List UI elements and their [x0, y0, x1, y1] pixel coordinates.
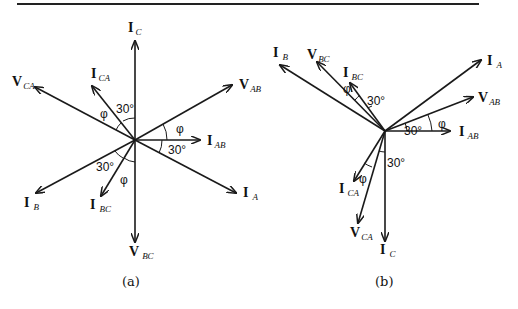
vector-ia	[385, 60, 481, 131]
label-ia: IA	[243, 185, 258, 202]
angle-label: φ	[438, 117, 446, 131]
angle-label: φ	[359, 172, 367, 186]
label-vca: VCA	[350, 225, 373, 242]
label-ic: IC	[128, 20, 142, 37]
angle-arc	[364, 163, 372, 167]
label-ica: ICA	[339, 181, 359, 198]
phasor-diagrams: 30° φ φ 30° 30° φ IC VCA ICA VAB IAB IA …	[0, 0, 518, 309]
angle-label: φ	[343, 82, 351, 96]
label-iab: IAB	[207, 133, 226, 150]
angle-arc	[115, 151, 123, 158]
label-vbc: VBC	[129, 244, 155, 261]
angle-arc	[355, 95, 360, 100]
label-ibc: IBC	[90, 197, 112, 214]
angle-arc	[116, 123, 121, 130]
angle-label: φ	[176, 122, 184, 136]
label-iab: IAB	[459, 124, 479, 141]
diagram-a: 30° φ φ 30° 30° φ IC VCA ICA VAB IAB IA …	[12, 20, 262, 289]
label-ia: IA	[487, 53, 502, 70]
angle-label: 30°	[168, 143, 186, 157]
angle-arc	[124, 158, 135, 162]
label-ib: IB	[24, 195, 39, 212]
angle-label: 30°	[404, 124, 422, 138]
caption-a: (a)	[122, 274, 140, 289]
angle-label: 30°	[96, 160, 114, 174]
diagram-b: φ 30° 30° φ 30° φ IB VBC IBC IA VAB IAB …	[273, 45, 502, 289]
label-vab: VAB	[239, 77, 262, 94]
label-vca: VCA	[12, 74, 35, 91]
label-ib: IB	[273, 45, 288, 62]
angle-label: 30°	[367, 94, 385, 108]
caption-b: (b)	[375, 274, 393, 289]
angle-label: φ	[120, 173, 128, 187]
label-vbc: VBC	[307, 47, 331, 64]
label-ica: ICA	[91, 66, 110, 83]
angle-arc	[428, 115, 432, 131]
angle-label: φ	[100, 107, 108, 121]
angle-arc	[163, 124, 167, 140]
angle-label: 30°	[116, 102, 134, 116]
label-ic: IC	[380, 242, 396, 259]
label-ibc: IBC	[343, 65, 364, 82]
angle-arc	[379, 151, 385, 152]
angle-arc	[159, 140, 162, 153]
angle-arc	[123, 118, 135, 121]
angle-label: 30°	[387, 156, 405, 170]
label-vab: VAB	[478, 90, 501, 107]
